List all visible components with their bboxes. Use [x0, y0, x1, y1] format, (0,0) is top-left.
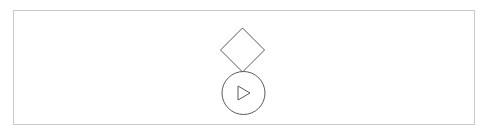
decision-diamond-node[interactable]: [221, 28, 265, 72]
play-circle-shape[interactable]: [222, 72, 265, 115]
diagram-canvas: [0, 0, 489, 135]
decision-diamond-shape[interactable]: [221, 28, 265, 72]
play-circle-node[interactable]: [222, 72, 265, 115]
diagram-shapes-layer: [0, 0, 489, 135]
play-triangle-icon[interactable]: [238, 86, 250, 100]
